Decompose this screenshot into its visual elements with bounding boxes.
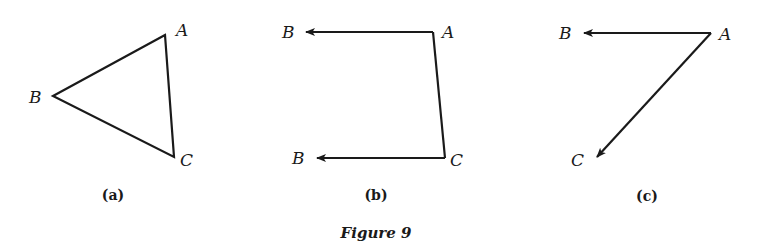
triangle-abc (53, 35, 174, 157)
point-label-b: B (558, 23, 572, 43)
point-label-a: A (440, 22, 454, 42)
segment-ac (433, 32, 445, 158)
figure-caption: Figure 9 (340, 224, 412, 242)
figure-9-diagram: A B C (a) B A B C (b) B A C (c) Figure 9 (0, 0, 759, 250)
point-label-c: C (180, 150, 193, 170)
point-label-b: B (28, 87, 42, 107)
point-label-c: C (571, 150, 584, 170)
arrow-a-to-c (597, 33, 711, 157)
panel-c: B A C (c) (558, 23, 731, 204)
point-label-a: A (174, 20, 188, 40)
panel-label-c: (c) (636, 188, 658, 204)
point-label-b-upper: B (281, 22, 295, 42)
point-label-c: C (450, 150, 463, 170)
panel-b: B A B C (b) (281, 22, 463, 203)
point-label-a: A (717, 24, 731, 44)
panel-label-b: (b) (364, 187, 387, 203)
panel-a: A B C (a) (28, 20, 193, 203)
point-label-b-lower: B (291, 148, 305, 168)
panel-label-a: (a) (102, 187, 124, 203)
